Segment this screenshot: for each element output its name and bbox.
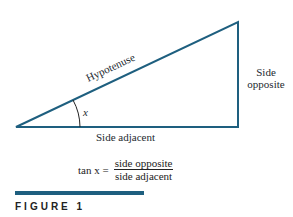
tangent-formula: tan x = side opposite side adjacent xyxy=(78,157,173,182)
angle-arc xyxy=(73,100,80,127)
side-opposite-label: Side opposite xyxy=(247,66,285,90)
right-triangle xyxy=(0,0,293,217)
formula-numerator: side opposite xyxy=(114,157,174,170)
formula-fraction: side opposite side adjacent xyxy=(114,157,174,182)
side-opposite-line1: Side xyxy=(247,66,285,78)
caption-rule xyxy=(15,191,144,195)
formula-denominator: side adjacent xyxy=(115,170,172,182)
formula-lhs: tan x = xyxy=(78,164,109,176)
figure-caption: FIGURE 1 xyxy=(15,201,85,212)
angle-label: x xyxy=(83,106,88,118)
side-opposite-line2: opposite xyxy=(247,78,285,90)
side-adjacent-label: Side adjacent xyxy=(96,131,155,143)
triangle-shape xyxy=(16,22,238,127)
